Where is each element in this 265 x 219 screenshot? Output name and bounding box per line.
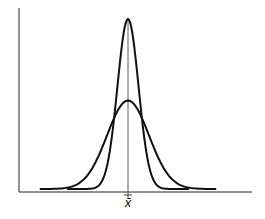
mean-label: x̄ <box>124 195 132 210</box>
chart-canvas: x̄ <box>0 0 265 219</box>
